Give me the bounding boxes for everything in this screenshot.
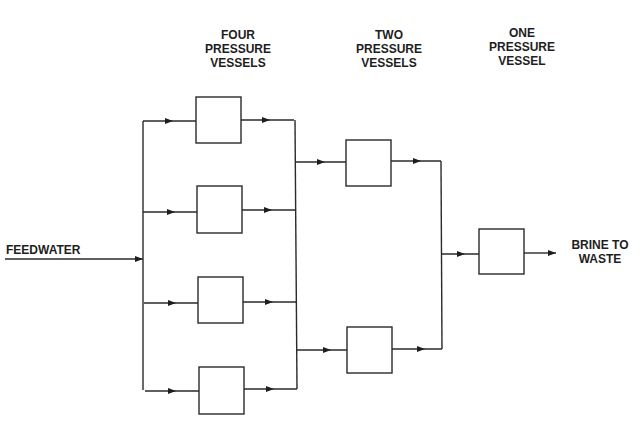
stage3-label: ONE PRESSURE VESSEL: [467, 26, 577, 68]
stage1-vessel-1-group: [143, 97, 294, 143]
flow-arrow: [165, 118, 173, 124]
flow-arrow: [167, 209, 175, 215]
flow-arrow: [457, 251, 465, 257]
pressure-vessel: [198, 277, 243, 323]
brine-label-line: WASTE: [560, 252, 640, 266]
pressure-vessel: [197, 186, 242, 233]
flow-arrow: [168, 300, 176, 306]
stage3-vessel-group: [441, 229, 556, 274]
stage2-outlet-bus: [441, 161, 442, 349]
stage2-label-line: TWO: [334, 28, 444, 42]
stage2-vessel-1-group: [295, 140, 441, 186]
stage1-label: FOUR PRESSURE VESSELS: [183, 28, 293, 70]
flow-arrow: [323, 347, 331, 353]
flow-arrow: [413, 158, 421, 164]
stage3-label-line: ONE: [467, 26, 577, 40]
stage1-label-line: VESSELS: [183, 56, 293, 70]
stage1-label-line: PRESSURE: [183, 42, 293, 56]
flow-arrow: [317, 159, 325, 165]
feedwater-label: FEEDWATER: [6, 243, 80, 257]
brine-label: BRINE TO WASTE: [560, 238, 640, 266]
flow-arrow: [264, 207, 272, 213]
flow-arrow: [266, 386, 274, 392]
pressure-vessel: [479, 229, 524, 274]
stage2-label-line: VESSELS: [334, 56, 444, 70]
feedwater-arrow: [135, 256, 143, 262]
flow-arrow: [417, 346, 425, 352]
stage1-outlet-bus: [295, 120, 297, 389]
stage2-label-line: PRESSURE: [334, 42, 444, 56]
flow-arrow: [265, 299, 273, 305]
stage2-label: TWO PRESSURE VESSELS: [334, 28, 444, 70]
stage1-vessel-3-group: [144, 277, 296, 323]
stage3-label-line: VESSEL: [467, 54, 577, 68]
stage1-vessel-4-group: [145, 367, 297, 414]
stage1-vessel-2-group: [143, 186, 295, 233]
brine-label-line: BRINE TO: [560, 238, 640, 252]
stage3-label-line: PRESSURE: [467, 40, 577, 54]
pressure-vessel: [347, 327, 392, 373]
flow-arrow: [262, 117, 270, 123]
pressure-vessel: [199, 367, 244, 414]
stage2-vessel-2-group: [297, 327, 442, 373]
pressure-vessel: [196, 97, 241, 143]
stage1-label-line: FOUR: [183, 28, 293, 42]
pressure-vessel: [346, 140, 391, 186]
brine-arrow: [548, 250, 556, 256]
feedwater-label-text: FEEDWATER: [6, 243, 80, 257]
flow-arrow: [168, 388, 176, 394]
